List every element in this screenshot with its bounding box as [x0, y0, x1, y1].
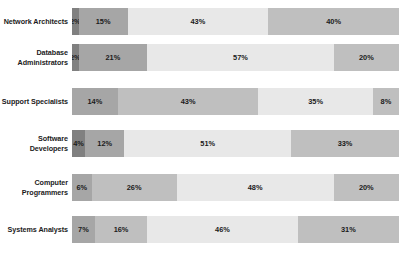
- bar-segment: 46%: [147, 216, 297, 243]
- bar-segment: 48%: [177, 174, 334, 201]
- bar-segment: 16%: [95, 216, 147, 243]
- segment-value-label: 51%: [200, 139, 215, 148]
- segment-value-label: 20%: [359, 183, 374, 192]
- segment-value-label: 15%: [96, 17, 111, 26]
- bar-segment: 40%: [268, 8, 399, 35]
- bar-segment: 21%: [79, 44, 148, 71]
- category-label: Database Administrators: [0, 48, 72, 67]
- chart-bar-row: Support Specialists14%43%35%8%: [0, 88, 399, 115]
- bar-segment: 51%: [124, 130, 291, 157]
- segment-value-label: 46%: [215, 225, 230, 234]
- bar-segment: 33%: [291, 130, 399, 157]
- bar-segment: 20%: [334, 44, 399, 71]
- stacked-bar-chart: Network Architects2%15%43%40%Database Ad…: [0, 0, 399, 248]
- chart-bar-row: Computer Programmers6%26%48%20%: [0, 174, 399, 201]
- category-label: Software Developers: [0, 134, 72, 153]
- segment-value-label: 20%: [359, 53, 374, 62]
- bar-segment: 15%: [79, 8, 128, 35]
- segment-value-label: 26%: [127, 183, 142, 192]
- bar-segment: 12%: [85, 130, 124, 157]
- stacked-bar: 2%21%57%20%: [72, 44, 399, 71]
- segment-value-label: 43%: [181, 97, 196, 106]
- segment-value-label: 33%: [338, 139, 353, 148]
- stacked-bar: 2%15%43%40%: [72, 8, 399, 35]
- segment-value-label: 48%: [248, 183, 263, 192]
- bar-segment: 35%: [258, 88, 372, 115]
- segment-value-label: 8%: [381, 97, 392, 106]
- segment-value-label: 14%: [87, 97, 102, 106]
- chart-bar-row: Software Developers4%12%51%33%: [0, 130, 399, 157]
- segment-value-label: 31%: [341, 225, 356, 234]
- segment-value-label: 7%: [78, 225, 89, 234]
- bar-segment: 7%: [72, 216, 95, 243]
- category-label: Network Architects: [0, 17, 72, 27]
- bar-segment: 26%: [92, 174, 177, 201]
- bar-segment: 20%: [334, 174, 399, 201]
- chart-bar-row: Database Administrators2%21%57%20%: [0, 44, 399, 71]
- category-label: Systems Analysts: [0, 225, 72, 235]
- category-label: Support Specialists: [0, 97, 72, 107]
- bar-segment: 14%: [72, 88, 118, 115]
- segment-value-label: 35%: [308, 97, 323, 106]
- bar-segment: 31%: [298, 216, 399, 243]
- bar-segment: 8%: [373, 88, 399, 115]
- bar-segment: 4%: [72, 130, 85, 157]
- stacked-bar: 14%43%35%8%: [72, 88, 399, 115]
- bar-segment: 57%: [147, 44, 333, 71]
- bar-segment: 43%: [118, 88, 259, 115]
- bar-segment: 43%: [128, 8, 269, 35]
- segment-value-label: 12%: [97, 139, 112, 148]
- segment-value-label: 40%: [326, 17, 341, 26]
- bar-segment: 6%: [72, 174, 92, 201]
- segment-value-label: 16%: [114, 225, 129, 234]
- segment-value-label: 6%: [76, 183, 87, 192]
- segment-value-label: 21%: [105, 53, 120, 62]
- segment-value-label: 57%: [233, 53, 248, 62]
- category-label: Computer Programmers: [0, 178, 72, 197]
- chart-legend: High school diploma or lessSome college …: [0, 250, 399, 278]
- stacked-bar: 6%26%48%20%: [72, 174, 399, 201]
- segment-value-label: 4%: [73, 139, 84, 148]
- chart-bar-row: Systems Analysts7%16%46%31%: [0, 216, 399, 243]
- chart-bar-row: Network Architects2%15%43%40%: [0, 8, 399, 35]
- stacked-bar: 7%16%46%31%: [72, 216, 399, 243]
- segment-value-label: 43%: [191, 17, 206, 26]
- stacked-bar: 4%12%51%33%: [72, 130, 399, 157]
